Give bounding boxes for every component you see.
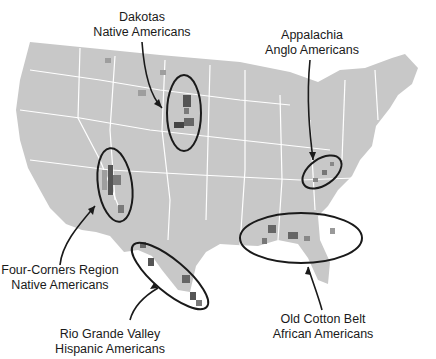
label-four-corners: Four-Corners Region Native Americans: [0, 263, 120, 293]
label-rio-grande: Rio Grande Valley Hispanic Americans: [50, 327, 170, 357]
label-dakotas: Dakotas Native Americans: [92, 10, 192, 40]
label-appalachia: Appalachia Anglo Americans: [260, 28, 364, 58]
us-landmass: [16, 42, 418, 292]
us-map: [0, 0, 436, 359]
label-cotton-belt: Old Cotton Belt African Americans: [268, 312, 378, 342]
